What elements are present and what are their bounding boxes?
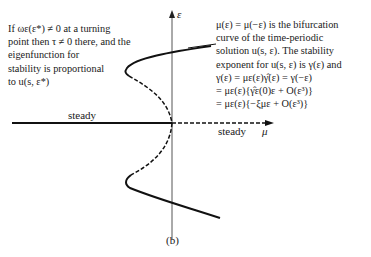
mu-label: μ — [262, 125, 268, 137]
right-annotation: μ(ε) = μ(−ε) is the bifurcation curve of… — [216, 18, 342, 110]
left-annotation-line: If ωε(ε*) ≠ 0 at a turning — [8, 22, 130, 35]
epsilon-label: ε — [177, 8, 181, 20]
epsilon-arrow-icon — [169, 10, 175, 18]
right-annotation-line: curve of the time-periodic — [216, 31, 342, 44]
left-annotation-line: stability is proportional — [8, 62, 130, 75]
left-annotation-line: to u(s, ε*) — [8, 75, 130, 88]
steady-label-left: steady — [68, 109, 96, 121]
lower-stable-branch — [126, 175, 220, 218]
left-annotation: If ωε(ε*) ≠ 0 at a turning point then τ … — [8, 22, 130, 88]
lower-unstable-branch — [131, 123, 172, 175]
right-annotation-line: solution u(s, ε). The stability — [216, 44, 342, 57]
right-annotation-line: γ(ε) = με(ε)γ̂(ε) = γ(−ε) — [216, 71, 342, 84]
upper-stable-branch — [126, 46, 211, 76]
right-annotation-line: μ(ε) = μ(−ε) is the bifurcation — [216, 18, 342, 31]
right-annotation-line: exponent for u(s, ε) is γ(ε) and — [216, 58, 342, 71]
figure-caption: (b) — [166, 234, 179, 246]
right-annotation-line: = με(ε){−ξμε + O(ε³)} — [216, 97, 342, 110]
right-annotation-line: = με(ε){γ̂ε(0)ε + O(ε³)} — [216, 84, 342, 97]
left-annotation-line: eigenfunction for — [8, 48, 130, 61]
steady-label-right: steady — [218, 125, 246, 137]
upper-unstable-branch — [129, 76, 172, 123]
left-annotation-line: point then τ ≠ 0 there, and the — [8, 35, 130, 48]
